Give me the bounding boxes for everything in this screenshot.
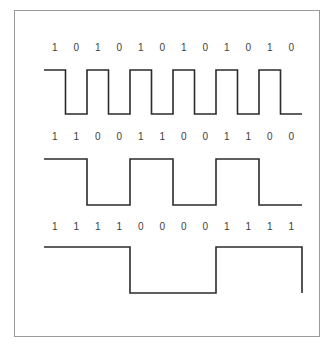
bit-label-row-3: 1 1 1 1 0 0 0 0 1 1 1 1: [44, 220, 302, 234]
bit-label: 1: [44, 220, 66, 234]
bit-label: 0: [281, 41, 303, 55]
bit-label: 1: [66, 220, 88, 234]
bit-label: 0: [87, 130, 109, 144]
waveform-trace: [44, 247, 302, 293]
waveform-trace: [44, 159, 302, 205]
bit-label: 1: [216, 220, 238, 234]
bit-label-row-2: 1 1 0 0 1 1 0 0 1 1 0 0: [44, 130, 302, 144]
bit-label: 1: [173, 41, 195, 55]
waveform-svg-1: [44, 68, 302, 116]
bit-label: 1: [66, 130, 88, 144]
bit-label: 0: [195, 220, 217, 234]
bit-label: 0: [130, 220, 152, 234]
bit-label: 1: [259, 41, 281, 55]
waveform-svg-3: [44, 245, 302, 295]
waveform-plot-1: [44, 68, 302, 116]
bit-label: 1: [109, 220, 131, 234]
bit-label: 1: [281, 220, 303, 234]
bit-label: 0: [66, 41, 88, 55]
bit-label: 1: [216, 41, 238, 55]
bit-label: 0: [281, 130, 303, 144]
bit-label: 1: [238, 130, 260, 144]
bit-label: 0: [152, 41, 174, 55]
waveform-svg-2: [44, 157, 302, 207]
bit-label: 0: [173, 220, 195, 234]
bit-label: 1: [87, 41, 109, 55]
waveform-figure: 1 0 1 0 1 0 1 0 1 0 1 0 1 1 0 0 1 1 0: [0, 0, 333, 350]
waveform-plot-2: [44, 157, 302, 207]
bit-label: 0: [152, 220, 174, 234]
bit-label: 0: [195, 130, 217, 144]
bit-label: 0: [195, 41, 217, 55]
bit-label: 1: [130, 41, 152, 55]
waveform-plot-3: [44, 245, 302, 295]
bit-label: 1: [44, 130, 66, 144]
bit-label: 0: [259, 130, 281, 144]
bit-label: 1: [87, 220, 109, 234]
bit-label: 0: [109, 41, 131, 55]
bit-label-row-1: 1 0 1 0 1 0 1 0 1 0 1 0: [44, 41, 302, 55]
bit-label: 1: [44, 41, 66, 55]
bit-label: 1: [238, 220, 260, 234]
bit-label: 1: [216, 130, 238, 144]
bit-label: 0: [173, 130, 195, 144]
bit-label: 1: [152, 130, 174, 144]
bit-label: 0: [109, 130, 131, 144]
bit-label: 1: [130, 130, 152, 144]
waveform-trace: [44, 70, 302, 114]
bit-label: 0: [238, 41, 260, 55]
bit-label: 1: [259, 220, 281, 234]
